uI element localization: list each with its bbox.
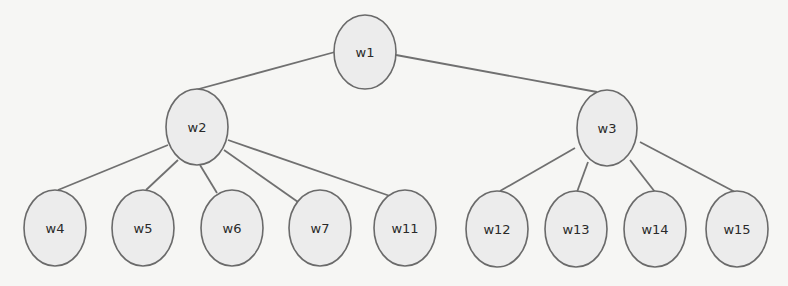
edge-w1-w3: [396, 55, 597, 92]
node-w11: w11: [374, 190, 436, 266]
node-w3: w3: [577, 90, 637, 166]
edge-w3-w13: [577, 162, 588, 192]
node-label: w15: [723, 222, 750, 237]
edge-w3-w15: [640, 142, 735, 192]
node-w6: w6: [201, 190, 263, 266]
node-label: w7: [311, 221, 330, 236]
node-label: w13: [562, 222, 589, 237]
edge-w2-w4: [58, 145, 168, 190]
node-label: w12: [483, 222, 510, 237]
node-w1: w1: [334, 15, 396, 89]
node-w12: w12: [466, 191, 528, 267]
edge-w3-w14: [630, 160, 655, 192]
node-w4: w4: [24, 190, 86, 266]
tree-diagram: w1w2w3w4w5w6w7w11w12w13w14w15: [0, 0, 788, 286]
node-label: w2: [188, 120, 207, 135]
node-label: w3: [598, 121, 617, 136]
edge-w2-w5: [146, 160, 178, 190]
node-label: w1: [356, 45, 375, 60]
nodes-layer: w1w2w3w4w5w6w7w11w12w13w14w15: [24, 15, 768, 267]
node-w7: w7: [289, 190, 351, 266]
node-w2: w2: [166, 89, 228, 165]
node-label: w5: [134, 221, 153, 236]
node-label: w4: [46, 221, 65, 236]
edge-w2-w6: [200, 165, 217, 193]
edge-w2-w11: [228, 140, 390, 196]
node-label: w14: [641, 222, 668, 237]
node-label: w11: [391, 221, 418, 236]
node-w13: w13: [545, 191, 607, 267]
edge-w3-w12: [500, 148, 575, 191]
node-w5: w5: [112, 190, 174, 266]
edge-w1-w2: [195, 52, 335, 90]
node-label: w6: [223, 221, 242, 236]
node-w15: w15: [706, 191, 768, 267]
node-w14: w14: [624, 191, 686, 267]
